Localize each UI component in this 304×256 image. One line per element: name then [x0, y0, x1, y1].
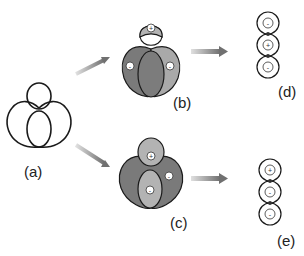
- arrow-a-to-b: [76, 57, 110, 74]
- panel-c-shape: [119, 138, 182, 208]
- panel-e-charges: + - -: [265, 165, 275, 219]
- panel-a-curve: [7, 83, 71, 147]
- svg-text:+: +: [149, 25, 153, 32]
- panel-e-label: (e): [277, 232, 295, 249]
- arrow-b-to-d: [191, 46, 228, 57]
- diagram: (a) + - - (b) + - - (c): [0, 0, 304, 256]
- panel-c-label: (c): [170, 214, 188, 231]
- svg-text:+: +: [149, 153, 153, 160]
- arrow-a-to-c: [76, 145, 110, 167]
- panel-d-label: (d): [278, 83, 296, 100]
- panel-b-label: (b): [173, 94, 191, 111]
- panel-d-charges: - + -: [263, 18, 273, 72]
- arrow-c-to-e: [191, 173, 228, 184]
- svg-text:+: +: [266, 42, 270, 49]
- panel-b-shape: [122, 26, 179, 97]
- panel-a-label: (a): [24, 163, 42, 180]
- svg-text:+: +: [268, 167, 272, 174]
